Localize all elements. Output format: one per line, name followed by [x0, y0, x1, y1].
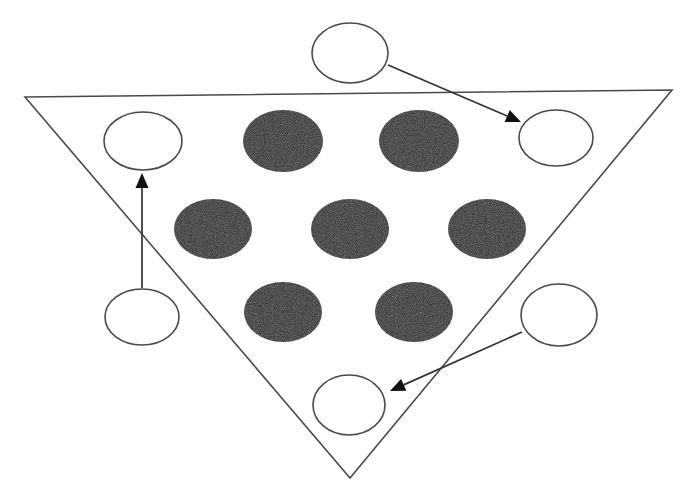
open-circle	[521, 284, 597, 346]
arrow-head	[136, 173, 149, 188]
filled-circle	[375, 282, 453, 342]
open-circle	[312, 23, 388, 83]
filled-circle	[379, 110, 459, 172]
filled-circle	[174, 199, 252, 259]
open-circle	[105, 289, 179, 345]
diagram-svg	[0, 0, 689, 501]
filled-circle	[448, 199, 526, 259]
filled-circle	[243, 110, 323, 172]
filled-circle-group	[174, 110, 526, 342]
arrow-shaft	[388, 65, 507, 116]
open-circle	[104, 112, 182, 170]
filled-circle	[244, 282, 322, 342]
figure-canvas	[0, 0, 689, 501]
open-circle	[519, 110, 593, 166]
open-circle	[313, 375, 385, 435]
filled-circle	[311, 199, 389, 259]
